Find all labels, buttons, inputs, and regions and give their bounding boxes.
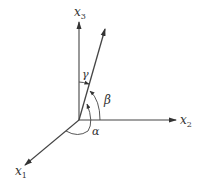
direction-angles-diagram: x3 x2 x1 γ β α [0,0,197,188]
x3-label: x3 [74,5,86,21]
x1-axis [25,120,79,165]
x1-label: x1 [15,164,27,180]
gamma-label: γ [82,68,89,81]
gamma-arc [79,82,89,84]
x2-label: x2 [180,113,192,129]
beta-arc [90,91,100,120]
alpha-label: α [92,125,100,138]
beta-label: β [103,93,111,107]
alpha-arc [66,104,91,135]
